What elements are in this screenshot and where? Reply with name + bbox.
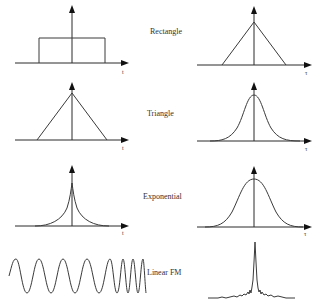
axis-label-t: t (122, 69, 124, 75)
axis-label-tau: τ (304, 231, 306, 237)
axis-label-tau: τ (305, 70, 307, 76)
row-rectangle-signal-plot (15, 5, 129, 66)
row-rectangle-autocorrelation-plot (197, 6, 312, 68)
arrow-right-icon (121, 60, 129, 66)
row-exponential-autocorrelation-plot (197, 166, 312, 230)
arrow-up-icon (69, 165, 75, 173)
row-triangle-signal-plot (15, 82, 129, 143)
axis-label-tau: τ (305, 146, 307, 152)
row-label-linear-fm: Linear FM (147, 269, 181, 277)
arrow-right-icon (121, 223, 129, 229)
row-exponential-signal-plot (15, 165, 129, 229)
arrow-right-icon (304, 138, 312, 144)
arrow-right-icon (304, 224, 312, 230)
row-triangle-autocorrelation-plot (197, 82, 312, 144)
chirp-waveform-curve (9, 259, 146, 293)
arrow-up-icon (69, 5, 75, 13)
row-label-triangle: Triangle (147, 110, 174, 118)
arrow-up-icon (69, 82, 75, 90)
row-linear-fm-autocorrelation-plot (208, 242, 295, 298)
row-label-rectangle: Rectangle (150, 28, 182, 36)
arrow-right-icon (121, 137, 129, 143)
bell-autocorrelation-curve (210, 95, 300, 141)
arrow-up-icon (251, 6, 257, 14)
arrow-up-icon (251, 82, 257, 90)
axis-label-t: t (122, 230, 124, 236)
row-label-exponential: Exponential (143, 193, 182, 201)
signal-autocorrelation-diagram (0, 0, 320, 307)
compressed-pulse-curve (208, 242, 295, 298)
arrow-right-icon (304, 62, 312, 68)
row-linear-fm-signal-plot (9, 259, 146, 293)
arrow-up-icon (251, 166, 257, 174)
axis-label-t: t (122, 145, 124, 151)
